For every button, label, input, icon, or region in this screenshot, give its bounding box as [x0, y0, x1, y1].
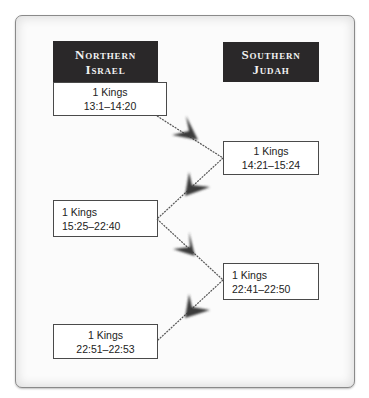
arrowhead-icon — [185, 172, 210, 196]
connector-arrows — [0, 0, 369, 398]
arrowhead-icon — [185, 294, 210, 318]
